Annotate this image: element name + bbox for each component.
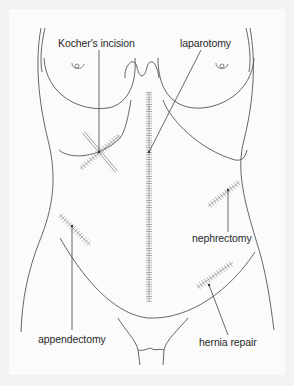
right-costal-margin xyxy=(163,100,247,160)
torso-diagram xyxy=(0,0,294,386)
label-hernia-repair: hernia repair xyxy=(199,336,257,348)
hernia-repair-incision xyxy=(195,260,234,290)
label-appendectomy: appendectomy xyxy=(38,333,106,345)
sternum-notch xyxy=(125,62,159,78)
left-breast xyxy=(44,58,135,109)
left-thigh-line xyxy=(118,318,140,365)
nipple-icons xyxy=(72,63,228,69)
left-areola-icon xyxy=(75,64,79,68)
laparotomy-incision xyxy=(146,92,152,302)
right-shoulder-line xyxy=(246,28,250,72)
label-kocher-incision: Kocher's incision xyxy=(58,37,135,49)
right-flank-outline xyxy=(241,28,274,330)
label-laparotomy: laparotomy xyxy=(180,37,231,49)
left-flank-outline xyxy=(21,28,53,332)
right-breast xyxy=(158,58,254,108)
right-thigh-line xyxy=(163,318,188,365)
inguinal-line xyxy=(60,238,255,318)
laparotomy-leader xyxy=(149,50,201,152)
pubic-line xyxy=(138,348,164,350)
nephrectomy-incision xyxy=(206,179,241,208)
label-nephrectomy: nephrectomy xyxy=(192,232,252,244)
right-areola-icon xyxy=(220,64,224,68)
